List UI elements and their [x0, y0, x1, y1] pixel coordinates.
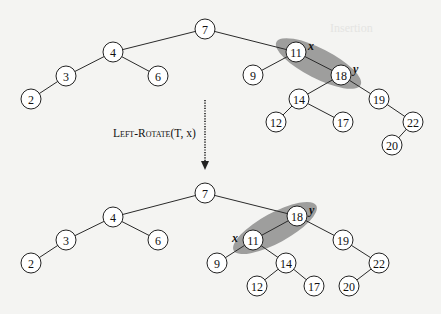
var-label-before-y: y [351, 62, 359, 76]
tree-node-before-19: 19 [369, 89, 389, 109]
node-key: 22 [407, 116, 419, 130]
tree-node-after-12: 12 [247, 276, 267, 296]
node-key: 12 [251, 280, 263, 294]
node-key: 7 [202, 23, 208, 37]
node-key: 2 [28, 93, 34, 107]
tree-node-after-11: 11 [243, 230, 263, 250]
tree-node-before-2: 2 [21, 89, 41, 109]
tree-node-after-22: 22 [369, 253, 389, 273]
node-key: 7 [202, 187, 208, 201]
node-key: 2 [28, 257, 34, 271]
tree-node-after-2: 2 [21, 253, 41, 273]
tree-node-before-22: 22 [403, 112, 423, 132]
tree-node-before-14: 14 [289, 89, 309, 109]
operation-label: Left-Rotate(T, x) [113, 127, 196, 140]
tree-node-before-17: 17 [333, 112, 353, 132]
tree-node-after-6: 6 [148, 230, 168, 250]
node-key: 9 [250, 69, 256, 83]
tree-node-after-19: 19 [333, 230, 353, 250]
node-key: 3 [63, 234, 69, 248]
tree-node-before-7: 7 [195, 19, 215, 39]
node-key: 14 [293, 93, 305, 107]
tree-node-before-18: 18 [331, 65, 351, 85]
node-key: 11 [247, 234, 259, 248]
tree-node-after-20: 20 [339, 276, 359, 296]
edge-after-7-18 [205, 193, 297, 216]
highlight-layer [227, 29, 368, 264]
node-key: 14 [280, 257, 292, 271]
tree-node-before-6: 6 [148, 66, 168, 86]
node-key: 20 [386, 139, 398, 153]
tree-node-before-3: 3 [56, 66, 76, 86]
node-key: 6 [155, 234, 161, 248]
tree-node-after-17: 17 [304, 276, 324, 296]
node-key: 20 [343, 280, 355, 294]
node-key: 18 [335, 69, 347, 83]
node-key: 4 [110, 211, 116, 225]
tree-diagram-canvas: Insertion 743621191814191217222074362181… [0, 0, 441, 314]
node-key: 3 [63, 70, 69, 84]
tree-node-after-4: 4 [103, 207, 123, 227]
tree-node-after-14: 14 [276, 253, 296, 273]
ghost-section-heading: Insertion [330, 21, 373, 35]
node-key: 17 [308, 280, 320, 294]
var-label-after-y: y [307, 203, 315, 217]
tree-node-before-11: 11 [286, 42, 306, 62]
node-key: 6 [155, 70, 161, 84]
left-rotate-figure: Insertion 743621191814191217222074362181… [0, 0, 441, 314]
node-key: 9 [214, 257, 220, 271]
node-layer: 7436211918141912172220743621811199142212… [21, 19, 423, 296]
tree-node-before-9: 9 [243, 65, 263, 85]
edge-before-7-4 [113, 29, 205, 52]
tree-node-before-4: 4 [103, 42, 123, 62]
tree-node-after-18: 18 [287, 206, 307, 226]
node-key: 19 [337, 234, 349, 248]
dotted-down-arrow-icon [201, 100, 209, 170]
tree-node-after-9: 9 [207, 253, 227, 273]
tree-node-after-3: 3 [56, 230, 76, 250]
node-key: 17 [337, 116, 349, 130]
var-label-after-x: x [231, 231, 238, 245]
edge-after-7-4 [113, 193, 205, 217]
tree-node-after-7: 7 [195, 183, 215, 203]
node-key: 12 [270, 116, 282, 130]
node-key: 4 [110, 46, 116, 60]
node-key: 22 [373, 257, 385, 271]
node-key: 18 [291, 210, 303, 224]
var-label-before-x: x [307, 39, 314, 53]
node-key: 11 [290, 46, 302, 60]
operation-args: (T, x) [170, 127, 196, 140]
operation-name: Left-Rotate [113, 127, 171, 139]
tree-node-before-20: 20 [382, 135, 402, 155]
node-key: 19 [373, 93, 385, 107]
tree-node-before-12: 12 [266, 112, 286, 132]
